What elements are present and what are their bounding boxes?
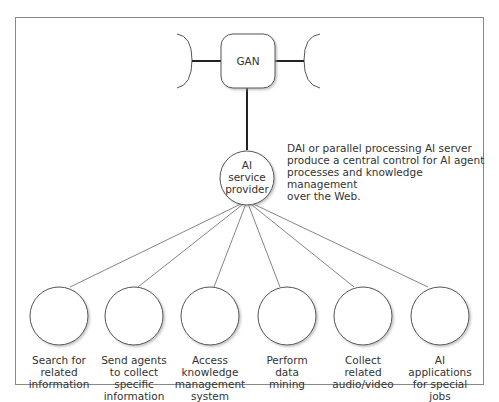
task-node-4 bbox=[258, 287, 316, 345]
task-label-4: Perform data mining bbox=[247, 354, 327, 390]
service-provider-label: AI service provider bbox=[212, 159, 282, 195]
right-network-bracket bbox=[304, 34, 320, 88]
task-label-2: Send agents to collect specific informat… bbox=[94, 354, 174, 402]
task-label-6: AI applications for special jobs bbox=[400, 354, 480, 402]
task-label-3: Access knowledge management system bbox=[170, 354, 250, 402]
service-description: DAI or parallel processing AI server pro… bbox=[287, 142, 487, 202]
task-node-6 bbox=[411, 287, 469, 345]
task-label-1: Search for related information bbox=[19, 354, 99, 390]
task-node-5 bbox=[334, 287, 392, 345]
task-node-3 bbox=[181, 287, 239, 345]
service-links bbox=[70, 201, 428, 287]
task-label-5: Collect related audio/video bbox=[323, 354, 403, 390]
task-node-1 bbox=[30, 287, 88, 345]
task-node-2 bbox=[105, 287, 163, 345]
gan-label: GAN bbox=[221, 55, 275, 67]
left-network-bracket bbox=[177, 34, 192, 88]
